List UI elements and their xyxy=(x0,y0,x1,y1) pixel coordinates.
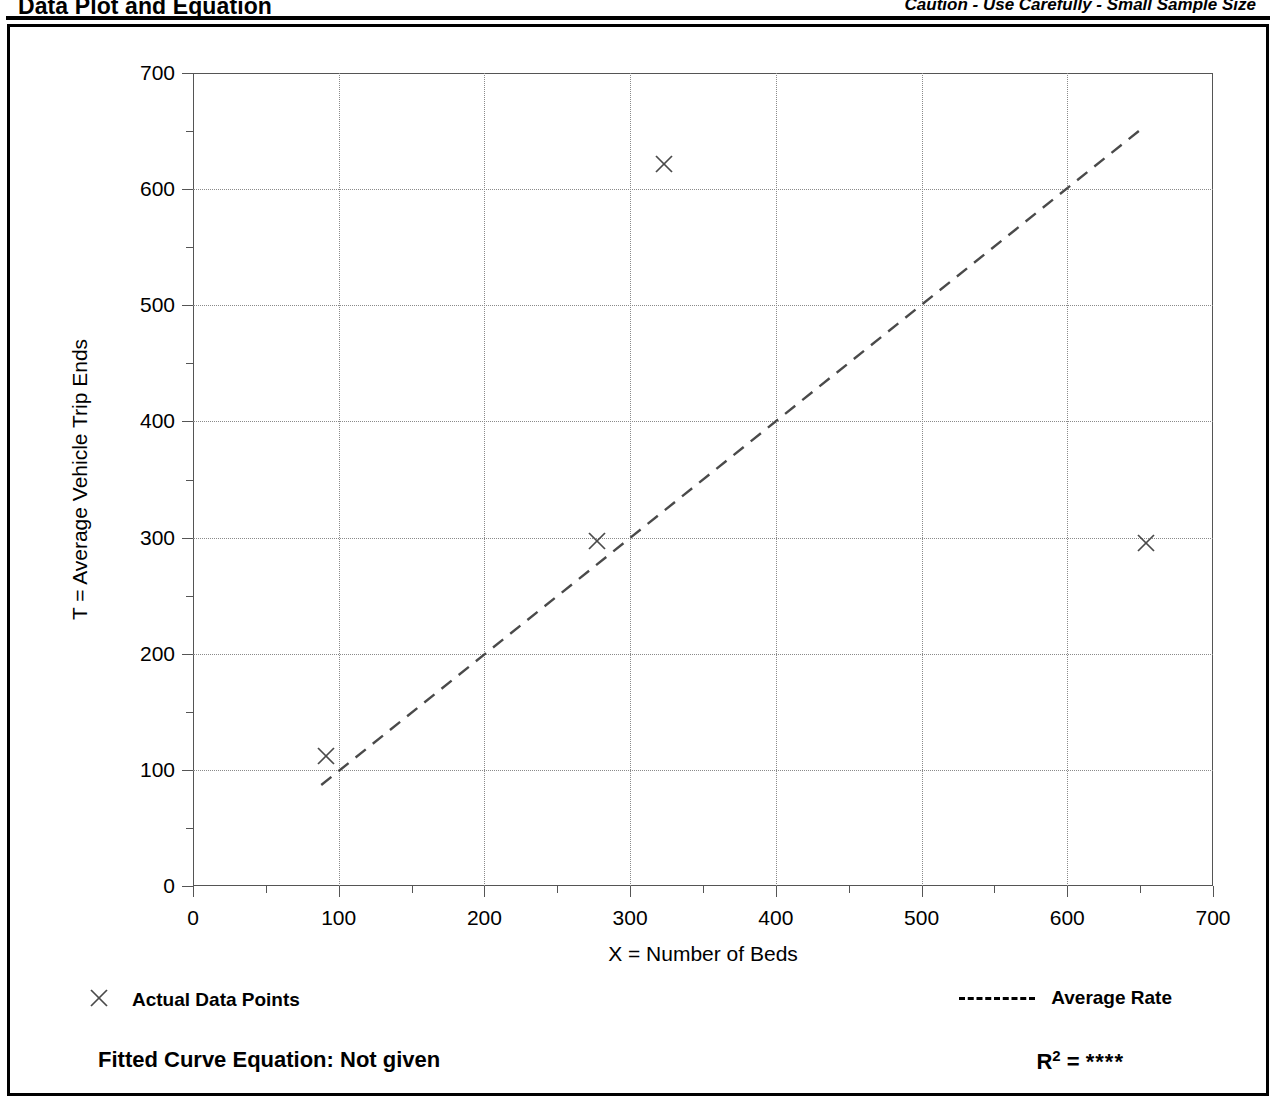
x-tick-major xyxy=(339,886,340,897)
y-tick-label: 0 xyxy=(163,874,175,898)
x-tick-major xyxy=(1067,886,1068,897)
x-tick-major xyxy=(484,886,485,897)
legend-item-actual-data-points: Actual Data Points xyxy=(88,987,300,1013)
equation-footer: Fitted Curve Equation: Not given R2 = **… xyxy=(10,1047,1272,1091)
chart-panel: T = Average Vehicle Trip Ends 0100200300… xyxy=(7,24,1269,1096)
x-tick-label: 500 xyxy=(904,906,939,930)
y-tick-minor xyxy=(186,131,193,132)
y-tick-major xyxy=(182,421,193,422)
y-tick-major xyxy=(182,73,193,74)
x-tick-major xyxy=(922,886,923,897)
y-tick-label: 500 xyxy=(140,293,175,317)
x-tick-major xyxy=(193,886,194,897)
y-tick-major xyxy=(182,189,193,190)
x-tick-label: 300 xyxy=(613,906,648,930)
x-tick-label: 400 xyxy=(758,906,793,930)
r-squared-value: R2 = **** xyxy=(1036,1047,1124,1075)
x-tick-label: 600 xyxy=(1050,906,1085,930)
y-tick-minor xyxy=(186,596,193,597)
legend-label-actual-data-points: Actual Data Points xyxy=(132,989,300,1011)
header-divider xyxy=(6,16,1270,20)
y-tick-label: 200 xyxy=(140,642,175,666)
data-point-marker xyxy=(1136,533,1156,553)
x-tick-minor xyxy=(849,886,850,893)
legend-item-average-rate: Average Rate xyxy=(959,987,1172,1009)
data-point-marker xyxy=(654,154,674,174)
r-squared-symbol: R xyxy=(1036,1049,1052,1074)
x-axis-title: X = Number of Beds xyxy=(193,942,1213,966)
x-tick-minor xyxy=(412,886,413,893)
y-tick-label: 100 xyxy=(140,758,175,782)
y-tick-label: 400 xyxy=(140,409,175,433)
y-tick-major xyxy=(182,654,193,655)
x-tick-minor xyxy=(266,886,267,893)
y-tick-major xyxy=(182,886,193,887)
x-tick-major xyxy=(776,886,777,897)
x-tick-major xyxy=(630,886,631,897)
page-header: Data Plot and Equation Caution - Use Car… xyxy=(0,0,1278,22)
x-tick-minor xyxy=(703,886,704,893)
plot-area: 0100200300400500600700 01002003004005006… xyxy=(193,73,1213,886)
r-squared-exponent: 2 xyxy=(1052,1047,1060,1064)
caution-note: Caution - Use Carefully - Small Sample S… xyxy=(905,0,1256,15)
y-tick-label: 600 xyxy=(140,177,175,201)
r-squared-equals: = xyxy=(1067,1049,1080,1074)
plot-wrapper: T = Average Vehicle Trip Ends 0100200300… xyxy=(10,27,1272,1099)
y-tick-minor xyxy=(186,247,193,248)
y-tick-major xyxy=(182,305,193,306)
y-tick-minor xyxy=(186,363,193,364)
x-tick-label: 0 xyxy=(187,906,199,930)
y-tick-label: 300 xyxy=(140,526,175,550)
data-point-marker xyxy=(316,746,336,766)
data-point-marker xyxy=(587,531,607,551)
x-tick-minor xyxy=(1140,886,1141,893)
legend-label-average-rate: Average Rate xyxy=(1051,987,1172,1009)
x-tick-label: 200 xyxy=(467,906,502,930)
r-squared-stars: **** xyxy=(1086,1049,1124,1074)
y-tick-minor xyxy=(186,480,193,481)
y-tick-major xyxy=(182,538,193,539)
x-tick-label: 100 xyxy=(321,906,356,930)
x-tick-label: 700 xyxy=(1195,906,1230,930)
y-tick-minor xyxy=(186,712,193,713)
y-tick-label: 700 xyxy=(140,61,175,85)
x-tick-major xyxy=(1213,886,1214,897)
x-marker-icon xyxy=(88,987,110,1013)
chart-legend: Actual Data Points Average Rate xyxy=(10,987,1272,1027)
dashed-line-icon xyxy=(959,997,1035,1000)
average-rate-line xyxy=(193,73,1213,886)
x-tick-minor xyxy=(994,886,995,893)
y-axis-title: T = Average Vehicle Trip Ends xyxy=(65,73,95,886)
fitted-curve-equation: Fitted Curve Equation: Not given xyxy=(98,1047,440,1073)
x-tick-minor xyxy=(557,886,558,893)
y-tick-major xyxy=(182,770,193,771)
y-tick-minor xyxy=(186,828,193,829)
